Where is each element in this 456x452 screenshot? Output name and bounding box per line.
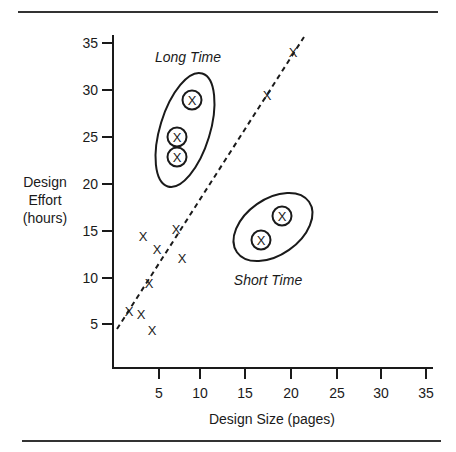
- y-tick-label: 20: [82, 176, 98, 192]
- y-tick-label: 5: [90, 316, 98, 332]
- x-marker: X: [188, 93, 197, 108]
- x-marker: X: [178, 251, 187, 266]
- y-tick-label: 10: [82, 270, 98, 286]
- x-tick-label: 10: [192, 385, 208, 401]
- long-time-ellipse: [144, 66, 226, 193]
- x-marker: X: [173, 150, 182, 165]
- x-tick-label: 30: [373, 385, 389, 401]
- y-tick-labels: 35 30 25 20 15 10 5: [82, 35, 98, 332]
- x-marker: X: [139, 229, 148, 244]
- short-time-label: Short Time: [234, 272, 303, 288]
- typical-points: X X X X X X X X X X: [125, 45, 298, 338]
- x-marker: X: [289, 45, 298, 60]
- x-marker: X: [172, 222, 181, 237]
- long-time-points: X X X: [168, 91, 202, 167]
- y-tick-label: 30: [82, 82, 98, 98]
- long-time-label: Long Time: [155, 49, 221, 65]
- x-tick-label: 5: [155, 385, 163, 401]
- x-tick-labels: 5 10 15 20 25 30 35: [155, 385, 434, 401]
- y-axis-title-line: Effort: [28, 192, 61, 208]
- y-axis-title: Design Effort (hours): [23, 174, 67, 226]
- y-axis-title-line: Design: [23, 174, 67, 190]
- short-time-points: X X: [252, 207, 292, 250]
- x-marker: X: [278, 209, 287, 224]
- x-marker: X: [148, 323, 157, 338]
- x-marker: X: [137, 307, 146, 322]
- y-tick-label: 15: [82, 223, 98, 239]
- chart-canvas: 35 30 25 20 15 10 5 5 10 15 20 25 30 35 …: [0, 0, 456, 452]
- x-tick-label: 35: [418, 385, 434, 401]
- y-axis-title-line: (hours): [23, 210, 67, 226]
- x-marker: X: [125, 304, 134, 319]
- x-marker: X: [145, 276, 154, 291]
- short-time-ellipse: [221, 179, 325, 275]
- x-axis-title: Design Size (pages): [209, 411, 335, 427]
- x-marker: X: [173, 130, 182, 145]
- x-marker: X: [263, 88, 272, 103]
- x-tick-label: 20: [283, 385, 299, 401]
- y-tick-label: 35: [82, 35, 98, 51]
- x-tick-label: 25: [329, 385, 345, 401]
- x-tick-label: 15: [237, 385, 253, 401]
- x-marker: X: [257, 233, 266, 248]
- y-tick-label: 25: [82, 129, 98, 145]
- x-marker: X: [153, 242, 162, 257]
